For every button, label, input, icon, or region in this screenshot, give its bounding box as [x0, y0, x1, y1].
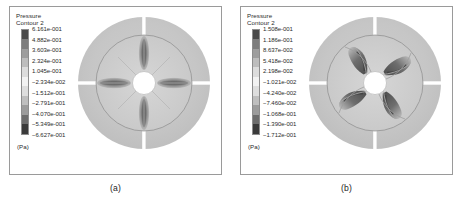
panel-a: Pressure Contour 2 6.161e-001 4.882e-001… [0, 0, 231, 214]
colorbar-band [253, 39, 259, 48]
colorbar-band [22, 39, 28, 48]
colorbar-band [253, 67, 259, 76]
colorbar-band [22, 49, 28, 58]
colorbar-band [253, 124, 259, 133]
hub-b [364, 72, 387, 95]
impeller-contour-svg-a [71, 11, 217, 171]
plot-frame-a: Pressure Contour 2 6.161e-001 4.882e-001… [9, 6, 222, 175]
colorbar-band [22, 115, 28, 124]
panel-b: Pressure Contour 2 1.508e-001 1.186e-001… [231, 0, 462, 214]
colorbar-band [22, 105, 28, 114]
hub-a [133, 72, 156, 95]
impeller-contour-svg-b [302, 11, 448, 171]
colorbar-band [22, 67, 28, 76]
colorbar-a [21, 29, 29, 135]
colorbar-band [253, 115, 259, 124]
figure-container: Pressure Contour 2 6.161e-001 4.882e-001… [0, 0, 462, 214]
colorbar-band [253, 58, 259, 67]
colorbar-band [253, 49, 259, 58]
colorbar-band [22, 58, 28, 67]
colorbar-band [22, 77, 28, 86]
contour-plot-b [302, 11, 448, 171]
colorbar-band [253, 77, 259, 86]
colorbar-band [22, 30, 28, 39]
colorbar-band [22, 96, 28, 105]
colorbar-band [253, 86, 259, 95]
colorbar-band [22, 86, 28, 95]
plot-frame-b: Pressure Contour 2 1.508e-001 1.186e-001… [240, 6, 453, 175]
panel-caption-b: (b) [231, 183, 462, 193]
colorbar-band [22, 124, 28, 133]
colorbar-band [253, 96, 259, 105]
colorbar-band [253, 30, 259, 39]
colorbar-b [252, 29, 260, 135]
panel-caption-a: (a) [0, 183, 231, 193]
contour-plot-a [71, 11, 217, 171]
colorbar-band [253, 105, 259, 114]
